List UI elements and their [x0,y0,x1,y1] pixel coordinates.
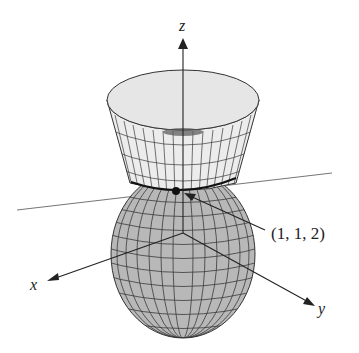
point-marker [172,187,180,195]
y-axis-label: y [316,300,326,318]
diagram-canvas: z x y (1, 1, 2) [0,0,359,353]
z-axis-arrowhead [178,38,188,49]
z-axis-label: z [178,17,186,34]
x-axis-label: x [29,276,37,293]
x-axis-arrowhead [47,273,59,281]
y-axis-arrowhead [303,297,315,306]
point-label: (1, 1, 2) [271,224,325,243]
